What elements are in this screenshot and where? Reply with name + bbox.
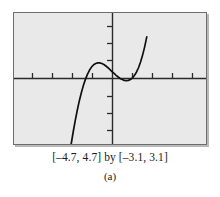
figure-panel: [–4.7, 4.7] by [–3.1, 3.1] (a) [0, 0, 220, 197]
screen-frame [13, 12, 207, 145]
panel-label: (a) [0, 169, 220, 184]
viewing-window-caption: [–4.7, 4.7] by [–3.1, 3.1] [0, 150, 220, 165]
calculator-screen [13, 12, 207, 145]
graph-plot [14, 13, 206, 144]
figure-caption: [–4.7, 4.7] by [–3.1, 3.1] (a) [0, 150, 220, 184]
